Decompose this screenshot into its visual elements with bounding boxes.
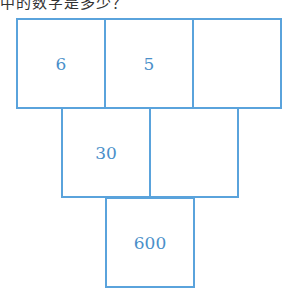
cell-row1-3 xyxy=(192,18,282,109)
question-text: 中的数字是多少？ xyxy=(0,0,128,12)
cell-row3-1: 600 xyxy=(105,197,195,288)
cell-row1-2: 5 xyxy=(104,18,194,109)
cell-row1-1: 6 xyxy=(16,18,106,109)
cell-row2-2 xyxy=(149,107,239,198)
cell-row2-1: 30 xyxy=(61,107,151,198)
